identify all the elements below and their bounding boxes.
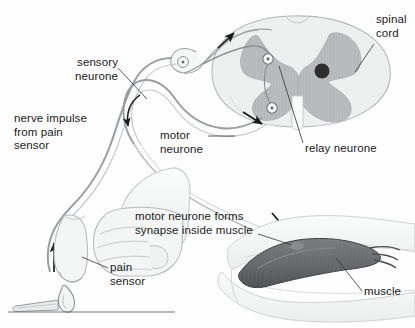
neuromuscular-synapse: [290, 242, 304, 250]
central-canal: [315, 64, 330, 79]
match-stick: [13, 300, 58, 312]
synapse-node-ventral-dot: [271, 107, 274, 110]
arrow-impulse-down-motor: [128, 95, 141, 126]
label-sensory-neurone: sensory neurone: [36, 56, 118, 83]
label-muscle: muscle: [364, 285, 414, 299]
reflex-arc-diagram: sensory neurone nerve impulse from pain …: [0, 0, 415, 328]
label-nerve-impulse: nerve impulse from pain sensor: [14, 112, 122, 153]
label-synapse-note: motor neurone forms synapse inside muscl…: [135, 210, 265, 237]
diagram-canvas: [0, 0, 415, 328]
label-spinal-cord: spinal cord: [376, 13, 415, 40]
label-pain-sensor: pain sensor: [110, 261, 156, 288]
flame-shape: [58, 285, 74, 312]
label-motor-neurone: motor neurone: [160, 129, 228, 156]
candle-flame: [13, 285, 75, 312]
sensory-cell-nucleus: [182, 61, 185, 64]
spinal-cord-cross-section: [212, 16, 390, 130]
index-finger: [54, 215, 87, 282]
synapse-node-dorsal-dot: [267, 58, 270, 61]
label-relay-neurone: relay neurone: [305, 142, 395, 156]
